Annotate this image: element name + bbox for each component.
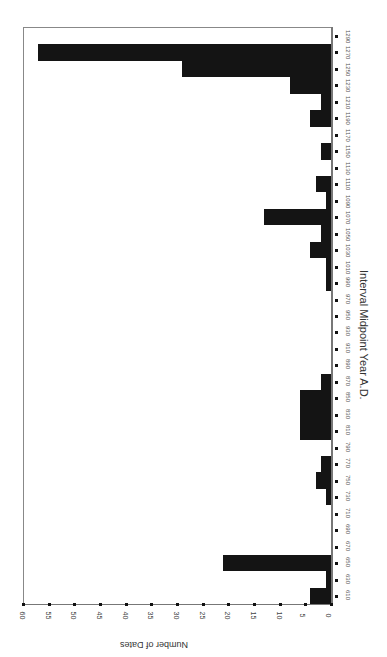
bar-650	[223, 555, 331, 571]
category-tick	[335, 84, 338, 87]
category-tick	[335, 266, 338, 269]
category-tick	[335, 331, 338, 334]
category-tick-label: 930	[345, 326, 351, 336]
category-tick	[335, 233, 338, 236]
category-tick-label: 1090	[345, 195, 351, 208]
bar-610	[310, 588, 331, 604]
category-tick-label: 810	[345, 425, 351, 435]
value-tick	[48, 603, 51, 606]
bar-870	[321, 374, 331, 390]
category-tick	[335, 282, 338, 285]
category-tick-label: 1070	[345, 211, 351, 224]
category-tick-label: 1230	[345, 79, 351, 92]
category-tick-label: 1270	[345, 46, 351, 59]
category-tick-label: 850	[345, 392, 351, 402]
bar-1210	[321, 94, 331, 110]
value-tick-label: 25	[199, 612, 206, 620]
bar-810	[300, 423, 331, 439]
value-tick-label: 60	[19, 612, 26, 620]
bar-1030	[310, 242, 331, 258]
category-tick	[335, 447, 338, 450]
category-tick	[335, 513, 338, 516]
category-tick	[335, 299, 338, 302]
bar-1250	[182, 61, 331, 77]
category-tick	[335, 150, 338, 153]
value-tick	[330, 603, 333, 606]
category-tick	[335, 562, 338, 565]
category-tick-label: 870	[345, 376, 351, 386]
category-tick-label: 710	[345, 508, 351, 518]
category-tick-label: 770	[345, 458, 351, 468]
category-tick-label: 1030	[345, 244, 351, 257]
bar-830	[300, 407, 331, 423]
category-tick-label: 1010	[345, 261, 351, 274]
bar-1110	[316, 176, 331, 192]
value-tick	[202, 603, 205, 606]
category-tick-label: 1150	[345, 145, 351, 158]
category-tick-label: 1110	[345, 178, 351, 190]
category-tick	[335, 430, 338, 433]
category-tick	[335, 364, 338, 367]
value-tick	[176, 603, 179, 606]
category-tick	[335, 51, 338, 54]
zero-baseline	[331, 27, 333, 605]
category-tick-label: 1130	[345, 162, 351, 175]
bar-750	[316, 472, 331, 488]
category-tick	[335, 183, 338, 186]
category-tick	[335, 315, 338, 318]
category-tick-label: 1250	[345, 63, 351, 76]
value-tick-label: 5	[300, 614, 307, 618]
value-tick-label: 20	[225, 612, 232, 620]
category-tick-label: 1170	[345, 129, 351, 142]
bar-1190	[310, 110, 331, 126]
category-tick	[335, 101, 338, 104]
category-tick-label: 1290	[345, 30, 351, 43]
category-tick-label: 690	[345, 524, 351, 534]
category-tick-label: 790	[345, 442, 351, 452]
value-tick	[227, 603, 230, 606]
bar-1070	[264, 209, 331, 225]
category-tick	[335, 200, 338, 203]
value-tick-label: 55	[45, 612, 52, 620]
category-tick-label: 1210	[345, 96, 351, 109]
bar-1050	[321, 225, 331, 241]
category-tick-label: 1050	[345, 228, 351, 241]
value-tick	[279, 603, 282, 606]
value-tick	[304, 603, 307, 606]
category-tick	[335, 397, 338, 400]
category-tick	[335, 249, 338, 252]
value-tick	[253, 603, 256, 606]
category-tick	[335, 529, 338, 532]
bar-770	[321, 456, 331, 472]
category-tick	[335, 496, 338, 499]
category-tick-label: 730	[345, 491, 351, 501]
category-tick-label: 990	[345, 277, 351, 287]
bar-1270	[38, 44, 331, 60]
category-tick-label: 750	[345, 475, 351, 485]
bar-850	[300, 390, 331, 406]
value-tick-label: 40	[122, 612, 129, 620]
value-tick	[125, 603, 128, 606]
value-tick-label: 15	[250, 612, 257, 620]
category-tick	[335, 117, 338, 120]
category-tick	[335, 546, 338, 549]
bar-1150	[321, 143, 331, 159]
value-tick	[99, 603, 102, 606]
value-tick-label: 0	[325, 614, 332, 618]
category-tick	[335, 68, 338, 71]
category-tick-label: 1190	[345, 112, 351, 125]
category-tick-label: 970	[345, 294, 351, 304]
category-tick	[335, 134, 338, 137]
category-tick-label: 890	[345, 359, 351, 369]
category-tick-label: 830	[345, 409, 351, 419]
value-tick-label: 10	[276, 612, 283, 620]
category-tick	[335, 167, 338, 170]
category-tick-label: 670	[345, 541, 351, 551]
category-tick	[335, 381, 338, 384]
category-tick-label: 910	[345, 343, 351, 353]
category-tick	[335, 414, 338, 417]
value-tick-label: 30	[173, 612, 180, 620]
plot-frame	[23, 27, 331, 605]
category-tick	[335, 348, 338, 351]
category-tick	[335, 463, 338, 466]
